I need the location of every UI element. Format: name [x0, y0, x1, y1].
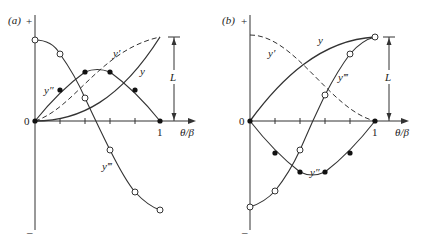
one-label: 1 [157, 126, 163, 138]
dimension-L: L [383, 37, 395, 121]
minus-sign: – [241, 226, 248, 238]
dimension-L: L [168, 37, 180, 121]
plus-sign: + [26, 15, 32, 27]
origin-label: 0 [239, 115, 245, 127]
minus-sign: – [26, 226, 33, 238]
plus-sign: + [241, 15, 247, 27]
x-axis-arrow-icon [188, 118, 196, 124]
origin-label: 0 [24, 115, 30, 127]
panel-a: (a) + – 0 1 θ/β L [8, 14, 196, 238]
label-y-triple-prime: y‴ [337, 71, 349, 83]
x-axis-label: θ/β [180, 126, 194, 138]
label-y-triple-prime: y‴ [101, 160, 113, 172]
one-label: 1 [372, 126, 378, 138]
panel-a-label: (a) [8, 14, 21, 27]
curve-y [35, 37, 160, 121]
curve-y-triple-prime [250, 37, 375, 207]
panel-b-label: (b) [222, 14, 235, 27]
svg-text:L: L [384, 71, 391, 83]
svg-text:L: L [169, 71, 176, 83]
curve-y-prime [35, 37, 160, 121]
label-y-prime: y′ [267, 47, 276, 59]
curve-y-double-prime [35, 70, 160, 122]
label-y-double-prime: y″ [309, 166, 320, 178]
x-axis-label: θ/β [395, 126, 409, 138]
x-axis-arrow-icon [401, 118, 409, 124]
y-double-prime-points [32, 69, 162, 123]
label-y-prime: y′ [112, 47, 121, 59]
label-y-double-prime: y″ [43, 84, 54, 96]
panel-b: (b) + – 0 1 θ/β L [222, 14, 409, 238]
label-y: y [139, 65, 145, 77]
label-y: y [317, 34, 323, 46]
cam-motion-diagram: (a) + – 0 1 θ/β L [0, 0, 428, 239]
